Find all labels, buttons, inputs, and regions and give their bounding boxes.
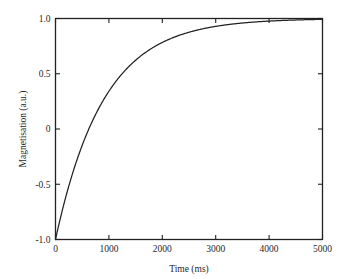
y-tick-label: 0.5	[39, 69, 51, 79]
x-tick-label: 0	[53, 244, 58, 254]
x-axis-title: Time (ms)	[169, 264, 209, 275]
data-series-inversion-recovery	[56, 19, 323, 239]
y-axis-ticks-right	[318, 19, 323, 240]
x-tick-label: 1000	[99, 244, 118, 254]
y-tick-label: 1.0	[39, 14, 51, 24]
y-axis-title: Magnetisation (a.u.)	[18, 91, 29, 168]
x-axis-ticks-bottom	[56, 235, 323, 240]
x-tick-label: 4000	[260, 244, 279, 254]
x-tick-label: 5000	[313, 244, 332, 254]
inversion-recovery-chart: 010002000300040005000 -1.0-0.500.51.0 Ti…	[0, 0, 347, 279]
y-axis-tick-labels: -1.0-0.500.51.0	[35, 14, 50, 245]
y-tick-label: 0	[46, 124, 51, 134]
x-tick-label: 3000	[206, 244, 225, 254]
y-tick-label: -0.5	[35, 180, 50, 190]
chart-figure: 010002000300040005000 -1.0-0.500.51.0 Ti…	[0, 0, 347, 279]
plot-frame	[56, 19, 323, 240]
x-axis-tick-labels: 010002000300040005000	[53, 244, 332, 254]
y-tick-label: -1.0	[35, 235, 50, 245]
x-tick-label: 2000	[153, 244, 172, 254]
y-axis-ticks-left	[56, 19, 61, 240]
